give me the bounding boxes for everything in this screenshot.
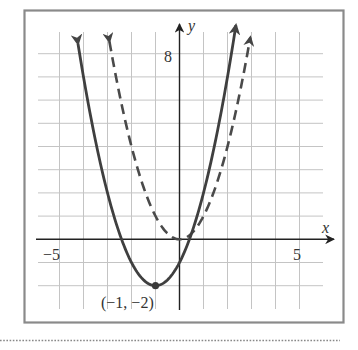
graph-frame — [25, 11, 344, 323]
vertex-label: (−1, −2) — [101, 294, 154, 312]
graph: y x 8 −5 5 (−1, −2) — [0, 0, 358, 350]
x-tick-label-5: 5 — [293, 246, 301, 263]
y-tick-label-8: 8 — [164, 48, 172, 65]
x-axis-label: x — [321, 219, 329, 236]
y-axis-label: y — [186, 17, 196, 35]
x-tick-label-neg5: −5 — [43, 246, 60, 263]
vertex-point — [152, 282, 159, 289]
